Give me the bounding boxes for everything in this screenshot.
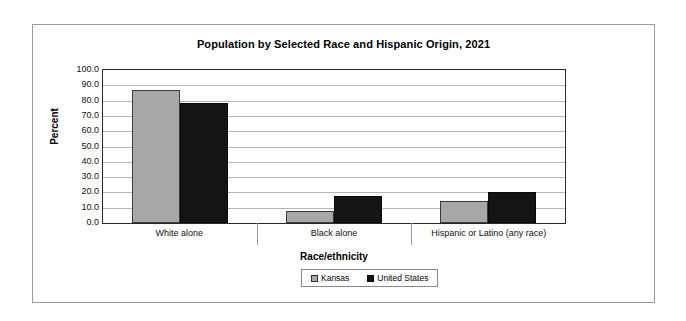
y-tick-label: 70.0 [59, 111, 99, 120]
x-tick-label-text: Black alone [311, 228, 358, 238]
y-tick-label: 40.0 [59, 157, 99, 166]
legend-item-kansas[interactable]: Kansas [311, 273, 349, 283]
bars-layer [103, 70, 565, 223]
bar-kansas-white-alone[interactable] [132, 90, 180, 223]
plot-area [102, 69, 566, 224]
y-tick-label: 100.0 [59, 65, 99, 74]
chart-legend: Kansas United States [301, 269, 438, 287]
y-tick-label: 0.0 [59, 218, 99, 227]
y-axis-tick-labels: 100.0 90.0 80.0 70.0 60.0 50.0 40.0 30.0… [55, 69, 99, 222]
legend-item-label: Kansas [321, 273, 349, 283]
y-tick-label: 60.0 [59, 126, 99, 135]
chart-figure: Population by Selected Race and Hispanic… [32, 24, 655, 303]
legend-swatch-icon [367, 275, 374, 282]
bar-united-states-white-alone[interactable] [180, 103, 228, 223]
y-tick-label: 30.0 [59, 172, 99, 181]
bar-group-hispanic-or-latino [411, 70, 565, 223]
y-tick-label: 20.0 [59, 187, 99, 196]
y-tick-label: 50.0 [59, 142, 99, 151]
y-tick-label: 90.0 [59, 80, 99, 89]
bar-group-black-alone [257, 70, 411, 223]
x-tick-label-black-alone: Black alone [257, 228, 412, 238]
y-tick-label: 80.0 [59, 96, 99, 105]
bar-united-states-hispanic-or-latino[interactable] [488, 192, 536, 223]
legend-item-label: United States [377, 273, 428, 283]
x-tick-label-text: Hispanic or Latino (any race) [431, 228, 546, 238]
bar-kansas-hispanic-or-latino[interactable] [440, 201, 488, 223]
y-tick-label: 10.0 [59, 203, 99, 212]
x-axis-label: Race/ethnicity [102, 251, 566, 262]
x-tick-label-white-alone: White alone [102, 228, 257, 238]
bar-group-white-alone [103, 70, 257, 223]
bar-kansas-black-alone[interactable] [286, 211, 334, 223]
chart-title: Population by Selected Race and Hispanic… [33, 38, 654, 50]
legend-swatch-icon [311, 275, 318, 282]
bar-united-states-black-alone[interactable] [334, 196, 382, 223]
x-axis-tick-labels: White alone Black alone Hispanic or Lati… [102, 228, 566, 238]
x-tick-label-hispanic-or-latino: Hispanic or Latino (any race) [411, 228, 566, 238]
legend-item-united-states[interactable]: United States [367, 273, 428, 283]
